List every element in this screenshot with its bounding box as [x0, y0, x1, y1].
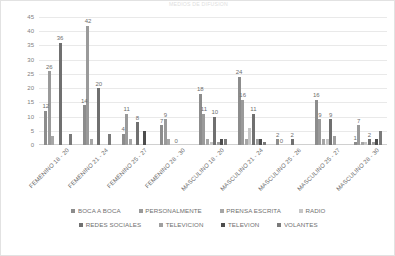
bar [379, 131, 382, 145]
y-axis-tick-label: 30 [27, 57, 34, 63]
legend-label: BOCA A BOCA [78, 207, 121, 214]
legend-item[interactable]: REDES SOCIALES [79, 221, 141, 228]
bar [217, 142, 220, 145]
bar [69, 134, 72, 145]
bar [241, 100, 244, 146]
bar [248, 128, 251, 145]
bar [51, 136, 54, 145]
bar [263, 142, 266, 145]
bar-value-label: 1 [353, 135, 356, 141]
bar [90, 139, 93, 145]
bar [368, 139, 371, 145]
bar [256, 139, 259, 145]
bar [361, 142, 364, 145]
bar-group: 144220 [78, 17, 117, 145]
x-axis-label: MASCULINO 18 - 20 [180, 147, 226, 193]
bar [129, 139, 132, 145]
bar-cluster [310, 17, 354, 145]
bar-cluster [348, 17, 392, 145]
legend-swatch-icon [79, 223, 83, 227]
bar-value-label: 26 [46, 64, 53, 70]
bar-value-label: 0 [174, 138, 177, 144]
bar [164, 119, 167, 145]
legend-label: PERSONALMENTE [145, 207, 202, 214]
bar [329, 119, 332, 145]
legend-row-1: BOCA A BOCAPERSONALMENTEPRENSA ESCRITARA… [1, 207, 395, 214]
bar [97, 88, 100, 145]
bar [291, 139, 294, 145]
bar-group: 172 [348, 17, 387, 145]
bar [59, 43, 62, 145]
legend-item[interactable]: PERSONALMENTE [139, 207, 202, 214]
legend-item[interactable]: PRENSA ESCRITA [220, 207, 281, 214]
legend-swatch-icon [220, 209, 224, 213]
y-axis-tick-label: 45 [27, 14, 34, 20]
bar [83, 105, 86, 145]
bar-value-label: 0 [280, 138, 283, 144]
y-axis-tick-label: 35 [27, 42, 34, 48]
bar-cluster [271, 17, 315, 145]
bar [167, 139, 170, 145]
y-axis-tick-label: 20 [27, 85, 34, 91]
legend-item[interactable]: BOCA A BOCA [71, 207, 120, 214]
bar [44, 111, 47, 145]
bar [245, 139, 248, 145]
plot-area: 1226361442204118790181110241611202169917… [39, 17, 387, 145]
bar [160, 125, 163, 145]
bar [202, 114, 205, 145]
bar-value-label: 11 [250, 106, 256, 112]
legend-item[interactable]: VOLANTES [277, 221, 317, 228]
bar-cluster [194, 17, 238, 145]
bar [326, 139, 329, 145]
legend-label: VOLANTES [284, 221, 318, 228]
x-axis-label: FEMENINO 28 - 30 [144, 147, 187, 190]
bar-value-label: 7 [357, 118, 360, 124]
bar [213, 117, 216, 145]
bar-group: 790 [155, 17, 194, 145]
legend-row-2: REDES SOCIALESTELEVICIONTELEVIONVOLANTES [1, 221, 395, 228]
bar [210, 142, 213, 145]
x-axis-label: MASCULINO 28 - 30 [335, 147, 381, 193]
bar [354, 142, 357, 145]
legend-label: REDES SOCIALES [86, 221, 141, 228]
bar-value-label: 9 [164, 112, 167, 118]
bar [357, 125, 360, 145]
chart-container: MEDIOS DE DIFUSION 454035302520151050 12… [0, 0, 395, 256]
chart-title: MEDIOS DE DIFUSION [1, 1, 395, 7]
bar-value-label: 10 [211, 109, 218, 115]
x-axis-label: FEMENINO 25 - 27 [106, 147, 149, 190]
bar [86, 26, 89, 145]
bar [364, 142, 367, 145]
bar-value-label: 36 [57, 35, 64, 41]
bar-group: 241611 [232, 17, 271, 145]
legend-label: TELEVICION [166, 221, 204, 228]
bar [220, 139, 223, 145]
legend-item[interactable]: TELEVION [221, 221, 259, 228]
bar [259, 139, 262, 145]
bar-value-label: 18 [197, 86, 204, 92]
legend-label: PRENSA ESCRITA [226, 207, 281, 214]
bar [143, 131, 146, 145]
bar [224, 139, 227, 145]
y-axis-tick-label: 0 [31, 142, 34, 148]
bar [333, 136, 336, 145]
bar [122, 134, 125, 145]
bar-group: 4118 [116, 17, 155, 145]
chart-legend: BOCA A BOCAPERSONALMENTEPRENSA ESCRITARA… [1, 207, 395, 247]
bar-value-label: 11 [124, 106, 130, 112]
bar-value-label: 8 [136, 115, 139, 121]
bar-value-label: 2 [368, 132, 371, 138]
bar [206, 139, 209, 145]
legend-swatch-icon [299, 209, 303, 213]
y-axis: 454035302520151050 [19, 17, 37, 145]
bar-value-label: 42 [85, 18, 92, 24]
legend-item[interactable]: TELEVICION [159, 221, 203, 228]
x-axis-category-labels: FEMENINO 18 - 20FEMENINO 21 - 24FEMENINO… [39, 147, 387, 203]
bar-group: 202 [271, 17, 310, 145]
bar-value-label: 24 [236, 69, 243, 75]
bar [136, 122, 139, 145]
bar [238, 77, 241, 145]
legend-item[interactable]: RADIO [299, 207, 326, 214]
bar-value-label: 2 [290, 132, 293, 138]
bar-value-label: 14 [81, 98, 88, 104]
